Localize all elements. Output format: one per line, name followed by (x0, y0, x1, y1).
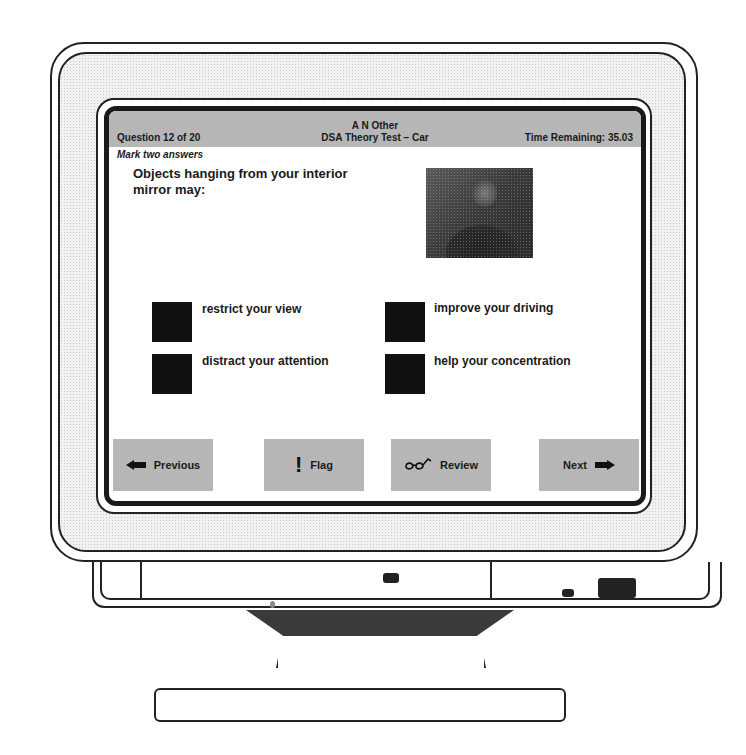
answer-label-1[interactable]: restrict your view (202, 302, 301, 316)
question-text: Objects hanging from your interior mirro… (133, 166, 353, 198)
next-label: Next (563, 459, 587, 471)
stand-neck (246, 610, 514, 638)
answer-label-3[interactable]: distract your attention (202, 354, 329, 368)
photo-texture (426, 168, 533, 258)
candidate-name: A N Other (109, 120, 641, 131)
glasses-icon (404, 457, 432, 473)
stand-pedestal (276, 636, 486, 668)
power-led-icon (562, 589, 574, 597)
stand-foot (154, 688, 566, 722)
power-switch[interactable] (598, 578, 636, 598)
flag-button[interactable]: ! Flag (264, 439, 364, 491)
answer-checkbox-1[interactable] (152, 302, 192, 342)
monitor-screen: A N Other DSA Theory Test – Car Question… (104, 106, 646, 506)
base-divider (490, 562, 492, 600)
answer-label-4[interactable]: help your concentration (434, 354, 571, 368)
answer-checkbox-2[interactable] (385, 302, 425, 342)
instruction-text: Mark two answers (117, 149, 203, 160)
time-remaining: Time Remaining: 35.03 (525, 132, 633, 143)
base-divider (140, 562, 142, 600)
arrow-left-icon (126, 460, 146, 470)
next-button[interactable]: Next (539, 439, 639, 491)
question-photo (426, 168, 533, 258)
answer-label-2[interactable]: improve your driving (434, 301, 553, 315)
monitor-button[interactable] (383, 573, 399, 583)
flag-label: Flag (310, 459, 333, 471)
answer-checkbox-4[interactable] (385, 354, 425, 394)
previous-button[interactable]: Previous (113, 439, 213, 491)
review-button[interactable]: Review (391, 439, 491, 491)
header-bar: A N Other DSA Theory Test – Car Question… (109, 111, 641, 147)
review-label: Review (440, 459, 478, 471)
arrow-right-icon (595, 460, 615, 470)
brightness-knob-icon[interactable] (270, 601, 275, 608)
question-counter: Question 12 of 20 (117, 132, 200, 143)
exclamation-icon: ! (295, 454, 302, 476)
previous-label: Previous (154, 459, 200, 471)
answer-checkbox-3[interactable] (152, 354, 192, 394)
